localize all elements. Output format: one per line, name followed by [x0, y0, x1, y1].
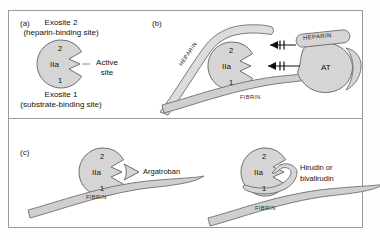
panel-a-thrombin-group	[37, 40, 90, 88]
panel-a-enzyme-label: IIa	[50, 60, 59, 69]
panel-c-left-group	[28, 148, 204, 218]
active-site-label-line2: site	[90, 68, 124, 78]
panel-c-left-fibrin-label: FIBRIN	[86, 194, 107, 200]
exosite1-caption-line2: (substrate-binding site)	[3, 100, 119, 110]
antithrombin-label: AT	[321, 63, 331, 72]
exosite2-caption-line2: (heparin-binding site)	[6, 28, 116, 38]
argatroban-label: Argatroban	[143, 167, 180, 176]
exosite1-caption-line1: Exosite 1	[11, 90, 111, 100]
panel-c-left-enzyme-label: IIa	[92, 168, 101, 177]
panel-a-exosite1-label: 1	[58, 76, 62, 85]
exosite2-caption-line1: Exosite 2	[11, 18, 111, 28]
panel-a-exosite2-label: 2	[58, 44, 62, 53]
panel-c-left-exosite1-label: 1	[100, 184, 104, 193]
active-site-label-line1: Active	[90, 58, 124, 68]
inhibition-arrow-active-site	[268, 62, 300, 71]
panel-b-enzyme-label: IIa	[222, 62, 231, 71]
hirudin-label-line1: Hirudin or	[300, 163, 333, 172]
figure-root: (a) (b) (c) Exosite 2 (heparin-binding s…	[0, 0, 380, 240]
panel-c-right-enzyme-label: IIa	[254, 168, 263, 177]
argatroban-shape	[124, 164, 139, 180]
panel-b-fibrin-label: FIBRIN	[240, 94, 261, 100]
panel-b-exosite2-label: 2	[229, 46, 233, 55]
panel-c-label: (c)	[20, 148, 29, 157]
inhibition-arrow-exosite2	[270, 41, 296, 50]
hirudin-label-line2: bivalirudin	[300, 174, 334, 183]
panel-b-label: (b)	[152, 19, 162, 28]
panel-c-left-exosite2-label: 2	[100, 152, 104, 161]
panel-b-exosite1-label: 1	[229, 78, 233, 87]
panel-c-right-exosite2-label: 2	[262, 152, 266, 161]
panel-c-right-group	[208, 148, 380, 226]
panel-c-right-fibrin-label: FIBRIN	[255, 205, 276, 211]
panel-c-right-exosite1-label: 1	[262, 184, 266, 193]
panel-c-right-fibrin-ribbon	[208, 184, 380, 226]
